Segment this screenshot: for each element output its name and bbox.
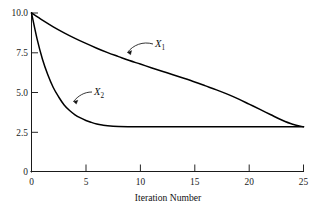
- y-tick-label-5: 5.0: [16, 88, 28, 98]
- x-tick-label-5: 5: [84, 177, 89, 187]
- y-tick-label-7p5: 7.5: [16, 48, 28, 58]
- series-label-x1-sub: 1: [161, 44, 165, 52]
- line-chart-canvas: 10.0 7.5 5.0 2.5 0 0 5 10 15 20 25 Itera…: [0, 0, 316, 209]
- y-tick-label-10: 10.0: [12, 8, 29, 18]
- x-axis-title: Iteration Number: [135, 192, 202, 203]
- series-label-x2-sub: 2: [100, 92, 104, 100]
- x-tick-label-0: 0: [29, 177, 34, 187]
- y-tick-label-0: 0: [23, 167, 28, 177]
- y-tick-label-2p5: 2.5: [16, 128, 28, 138]
- x-tick-label-25: 25: [299, 177, 309, 187]
- chart-background: [0, 0, 316, 209]
- x-tick-label-10: 10: [136, 177, 146, 187]
- x-tick-label-20: 20: [245, 177, 255, 187]
- chart-figure: 10.0 7.5 5.0 2.5 0 0 5 10 15 20 25 Itera…: [0, 0, 316, 209]
- x-tick-label-15: 15: [190, 177, 200, 187]
